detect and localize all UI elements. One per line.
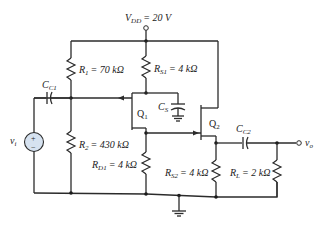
- rs2-label: RS2= 4 kΩ: [164, 167, 209, 180]
- vdd-terminal: [144, 26, 149, 41]
- rd1-label: RD1= 4 kΩ: [91, 159, 137, 172]
- resistor-r1: [67, 58, 75, 80]
- output-terminal: [297, 141, 302, 146]
- q1-label: Q1: [137, 108, 148, 121]
- q1-gate-arrow-icon: [118, 96, 124, 101]
- resistor-r2: [67, 131, 75, 153]
- r1-label: R1= 70 kΩ: [78, 64, 124, 77]
- ac-source-vi: + −: [25, 133, 44, 153]
- r2-label: R2= 430 kΩ: [78, 139, 129, 152]
- svg-text:+: +: [31, 134, 36, 143]
- cc2-label: CC2: [236, 123, 251, 136]
- vo-label: vo: [305, 137, 313, 150]
- cs-label: CS: [158, 101, 169, 114]
- ground-icon: [172, 211, 186, 216]
- rs1-label: RS1= 4 kΩ: [153, 63, 198, 76]
- resistor-rd1: [142, 152, 150, 174]
- vdd-label: VDD= 20 V: [125, 12, 173, 25]
- cc1-label: CC1: [42, 79, 57, 92]
- svg-text:−: −: [31, 143, 36, 152]
- rl-label: RL= 2 kΩ: [229, 167, 270, 180]
- resistor-rs2: [212, 160, 220, 182]
- circuit-diagram: VDD= 20 V R1= 70 kΩ RS1= 4 kΩ Q1 CS: [0, 0, 316, 225]
- ground-icon-cs: [172, 116, 184, 121]
- resistor-rs1: [142, 56, 150, 78]
- resistor-rl: [273, 160, 281, 182]
- q2-label: Q2: [209, 118, 220, 131]
- vi-label: vi: [10, 135, 16, 148]
- q2-gate-arrow-icon: [193, 131, 199, 136]
